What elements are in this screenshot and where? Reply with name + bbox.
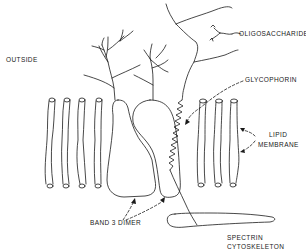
oligosaccharide-symbol: [210, 25, 241, 41]
lipid-molecule: [229, 99, 239, 187]
spectrin-cytoskeleton: [167, 213, 275, 227]
lipid-molecule: [94, 98, 102, 188]
label-spectrin: SPECTRIN: [227, 234, 263, 242]
lipid-molecule: [197, 99, 206, 187]
lipid-molecule: [45, 98, 55, 188]
label-membrane: MEMBRANE: [258, 141, 299, 149]
lipid-molecule: [77, 98, 86, 188]
label-outside: OUTSIDE: [6, 56, 38, 64]
membrane-diagram: OUTSIDE OLIGOSACCHARIDES GLYCOPHORIN LIP…: [0, 0, 306, 252]
band-3-dimer: [107, 100, 180, 197]
label-glycophorin: GLYCOPHORIN: [245, 76, 297, 84]
oligosaccharide-tree-left: [84, 30, 140, 100]
lipid-molecule: [62, 98, 70, 188]
glycophorin: [166, 4, 238, 225]
oligosaccharide-tree-right: [134, 44, 168, 100]
label-cytoskeleton: CYTOSKELETON: [227, 243, 284, 251]
lipid-bilayer-left: [45, 98, 102, 188]
label-band-3-dimer: BAND 3 DIMER: [90, 219, 141, 227]
label-lipid: LIPID: [269, 131, 287, 139]
lipid-bilayer-right: [197, 99, 239, 187]
lipid-molecule: [214, 99, 223, 187]
label-oligosaccharides: OLIGOSACCHARIDES: [239, 30, 306, 38]
